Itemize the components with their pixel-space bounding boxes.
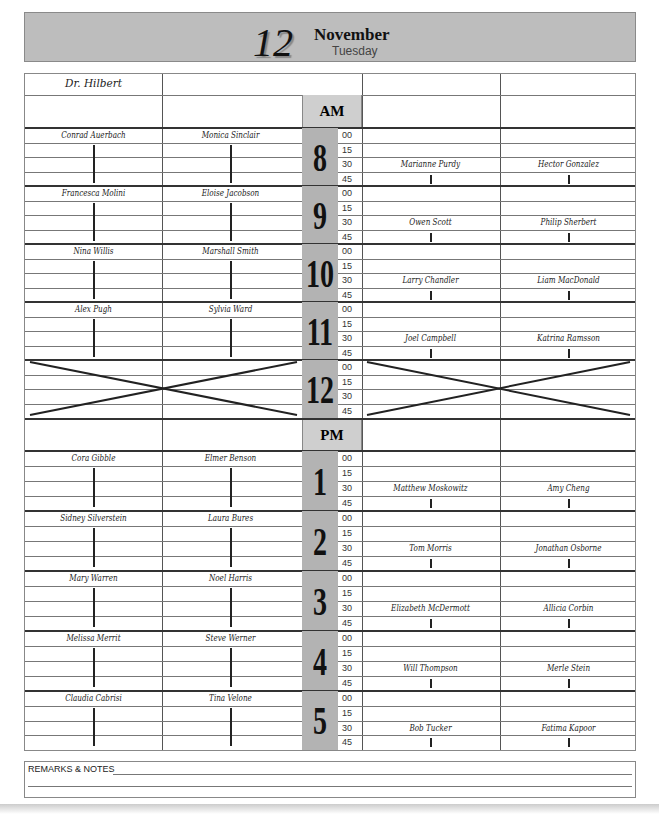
duration-bar xyxy=(230,468,232,507)
minute-label: 00 xyxy=(342,130,352,140)
minute-label: 00 xyxy=(342,693,352,703)
minute-label: 15 xyxy=(342,588,352,598)
appointment-slot[interactable]: Mary Warren xyxy=(35,573,151,583)
hour-label: 9 xyxy=(313,192,327,239)
appointment-slot[interactable]: Merle Stein xyxy=(510,663,626,673)
appointment-slot[interactable]: Elizabeth McDermott xyxy=(372,603,488,613)
hour-label: 11 xyxy=(307,308,333,355)
duration-bar xyxy=(568,619,570,628)
duration-bar xyxy=(430,291,432,300)
duration-bar xyxy=(230,145,232,183)
minute-label: 00 xyxy=(342,573,352,583)
appointment-slot[interactable]: Owen Scott xyxy=(372,217,488,227)
minute-label: 30 xyxy=(342,275,352,285)
appointment-slot[interactable]: Noel Harris xyxy=(172,573,288,583)
appointment-slot[interactable]: Melissa Merrit xyxy=(35,633,151,643)
page-shadow xyxy=(0,804,659,814)
hour-cell: 1 xyxy=(302,451,338,511)
appointment-slot[interactable]: Cora Gibble xyxy=(35,453,151,463)
minute-label: 45 xyxy=(342,618,352,628)
minute-label: 15 xyxy=(342,528,352,538)
remarks-line xyxy=(28,786,632,787)
minute-label: 45 xyxy=(342,678,352,688)
minute-label: 15 xyxy=(342,708,352,718)
minute-label: 00 xyxy=(342,188,352,198)
appointment-slot[interactable]: Allicia Corbin xyxy=(510,603,626,613)
hour-cell: 12 xyxy=(302,360,338,418)
month-label: November xyxy=(314,25,390,45)
minute-label: 15 xyxy=(342,261,352,271)
minute-label: 30 xyxy=(342,159,352,169)
appointment-slot[interactable]: Liam MacDonald xyxy=(510,275,626,285)
appointment-slot[interactable]: Laura Bures xyxy=(172,513,288,523)
minute-label: 00 xyxy=(342,362,352,372)
duration-bar xyxy=(430,499,432,508)
appointment-slot[interactable]: Larry Chandler xyxy=(372,275,488,285)
hour-label: 1 xyxy=(313,458,327,505)
row-line xyxy=(25,418,635,420)
am-label: AM xyxy=(302,95,362,128)
appointment-slot[interactable]: Marianne Purdy xyxy=(372,159,488,169)
duration-bar xyxy=(93,588,95,627)
appointment-slot[interactable]: Matthew Moskowitz xyxy=(372,483,488,493)
minute-label: 45 xyxy=(342,406,352,416)
appointment-slot[interactable]: Hector Gonzalez xyxy=(510,159,626,169)
duration-bar xyxy=(568,291,570,300)
appointment-slot[interactable]: Steve Werner xyxy=(172,633,288,643)
hour-cell: 8 xyxy=(302,128,338,186)
duration-bar xyxy=(568,559,570,568)
hour-cell: 9 xyxy=(302,186,338,244)
minute-label: 30 xyxy=(342,333,352,343)
appointment-slot[interactable]: Amy Cheng xyxy=(510,483,626,493)
schedule-table: Dr. Hilbert AMPM800153045Conrad Auerbach… xyxy=(24,73,636,751)
appointment-slot[interactable]: Francesca Molini xyxy=(35,188,151,198)
duration-bar xyxy=(93,468,95,507)
minute-label: 45 xyxy=(342,174,352,184)
duration-bar xyxy=(93,528,95,567)
appointment-slot[interactable]: Sylvia Ward xyxy=(172,304,288,314)
appointment-slot[interactable]: Marshall Smith xyxy=(172,246,288,256)
duration-bar xyxy=(430,349,432,358)
blocked-x-icon xyxy=(25,360,302,418)
duration-bar xyxy=(230,708,232,746)
appointment-slot[interactable]: Tina Velone xyxy=(172,693,288,703)
hour-cell: 5 xyxy=(302,691,338,750)
doctor-name: Dr. Hilbert xyxy=(25,77,162,89)
duration-bar xyxy=(93,145,95,183)
appointment-slot[interactable]: Will Thompson xyxy=(372,663,488,673)
appointment-slot[interactable]: Katrina Ramsson xyxy=(510,333,626,343)
appointment-slot[interactable]: Jonathan Osborne xyxy=(510,543,626,553)
remarks-box[interactable]: REMARKS & NOTES xyxy=(24,761,636,798)
appointment-slot[interactable]: Fatima Kapoor xyxy=(510,723,626,733)
appointment-slot[interactable]: Tom Morris xyxy=(372,543,488,553)
appointment-slot[interactable]: Sidney Silverstein xyxy=(35,513,151,523)
duration-bar xyxy=(430,619,432,628)
minute-label: 15 xyxy=(342,377,352,387)
duration-bar xyxy=(230,261,232,299)
appointment-slot[interactable]: Alex Pugh xyxy=(35,304,151,314)
duration-bar xyxy=(568,499,570,508)
appointment-slot[interactable]: Eloise Jacobson xyxy=(172,188,288,198)
appointment-slot[interactable]: Conrad Auerbach xyxy=(35,130,151,140)
minute-label: 30 xyxy=(342,217,352,227)
blocked-x-icon xyxy=(362,360,635,418)
minute-label: 45 xyxy=(342,232,352,242)
duration-bar xyxy=(568,738,570,747)
appointment-slot[interactable]: Monica Sinclair xyxy=(172,130,288,140)
appointment-slot[interactable]: Nina Willis xyxy=(35,246,151,256)
duration-bar xyxy=(568,349,570,358)
appointment-slot[interactable]: Claudia Cabrisi xyxy=(35,693,151,703)
hour-cell: 11 xyxy=(302,302,338,360)
appointment-slot[interactable]: Bob Tucker xyxy=(372,723,488,733)
appointment-slot[interactable]: Elmer Benson xyxy=(172,453,288,463)
appointment-slot[interactable]: Joel Campbell xyxy=(372,333,488,343)
hour-label: 3 xyxy=(313,578,327,625)
remarks-label: REMARKS & NOTES xyxy=(28,764,115,774)
weekday-label: Tuesday xyxy=(332,44,378,58)
appointment-slot[interactable]: Philip Sherbert xyxy=(510,217,626,227)
minute-label: 00 xyxy=(342,633,352,643)
minute-label: 15 xyxy=(342,145,352,155)
hour-label: 2 xyxy=(313,518,327,565)
minute-label: 45 xyxy=(342,290,352,300)
duration-bar xyxy=(430,175,432,184)
